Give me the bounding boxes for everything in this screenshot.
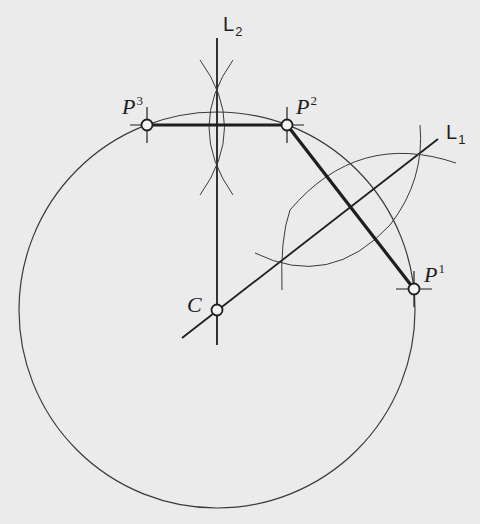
label-l1-letter: L xyxy=(446,121,457,143)
label-p2-letter: P xyxy=(296,94,309,119)
geometry-diagram: L2 L1 P3 P2 P1 C xyxy=(0,0,480,524)
construction-drawing xyxy=(0,0,480,524)
label-l1-subscript: 1 xyxy=(458,132,465,147)
label-c: C xyxy=(187,294,202,316)
label-p1-letter: P xyxy=(424,262,437,287)
label-p1-superscript: 1 xyxy=(438,261,445,276)
label-p3-letter: P xyxy=(122,94,135,119)
label-l2-letter: L xyxy=(223,13,234,35)
label-p3: P3 xyxy=(122,96,143,118)
construction-arc-l1-lower xyxy=(255,125,421,266)
point-marker-p3 xyxy=(142,120,153,131)
label-l2-subscript: 2 xyxy=(235,24,242,39)
point-marker-p2 xyxy=(282,120,293,131)
chord-p2-p1 xyxy=(287,125,414,289)
label-p3-superscript: 3 xyxy=(136,93,143,108)
point-marker-c xyxy=(212,305,223,316)
label-p2-superscript: 2 xyxy=(310,93,317,108)
label-p2: P2 xyxy=(296,96,317,118)
label-c-letter: C xyxy=(187,292,202,317)
label-p1: P1 xyxy=(424,264,445,286)
label-l1: L1 xyxy=(446,122,465,142)
label-l2: L2 xyxy=(223,14,242,34)
point-marker-p1 xyxy=(409,284,420,295)
